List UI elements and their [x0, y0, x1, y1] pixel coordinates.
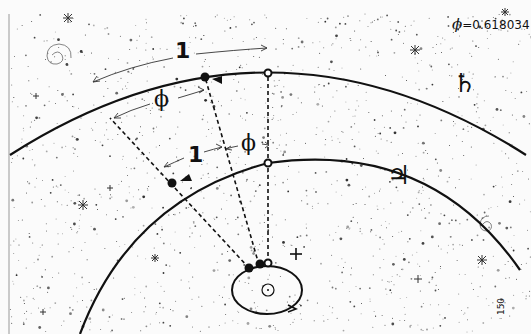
- sun-center: [267, 289, 269, 291]
- earth-position-1: [245, 264, 254, 273]
- jupiter-orbit: [80, 160, 520, 334]
- jupiter-direction-arrow: [180, 174, 192, 181]
- outer-phi-arrow-left: [114, 104, 150, 118]
- diagram-canvas: ϕ=0.618034 1 ϕ 1 ϕ ♄ ♃ 150: [0, 0, 531, 334]
- jupiter-position-open: [265, 160, 272, 167]
- outer-phi-label: ϕ: [154, 88, 169, 110]
- plus-marker: [290, 248, 302, 260]
- page-number: 150: [497, 298, 506, 315]
- sight-line-2: [205, 77, 259, 265]
- phi-value: =0.618034: [462, 18, 529, 32]
- earth-position-3: [265, 260, 272, 267]
- saturn-symbol: ♄: [453, 70, 476, 96]
- jupiter-symbol: ♃: [387, 162, 410, 188]
- orbit-diagram: [0, 0, 531, 334]
- earth-position-2: [256, 260, 265, 269]
- inner-phi-label: ϕ: [241, 132, 256, 154]
- saturn-position-filled: [201, 73, 210, 82]
- outer-one-arrow-right: [196, 48, 267, 54]
- outer-phi-arrow-right: [178, 90, 204, 98]
- outer-one-label: 1: [175, 40, 190, 62]
- inner-one-arrow-left: [164, 158, 184, 167]
- phi-symbol: ϕ: [452, 15, 462, 33]
- golden-ratio-constant: ϕ=0.618034: [452, 17, 530, 32]
- outer-one-arrow-left: [93, 58, 173, 82]
- inner-one-arrow-right: [204, 147, 222, 152]
- saturn-position-open: [265, 70, 272, 77]
- jupiter-position-filled: [168, 179, 177, 188]
- inner-one-label: 1: [188, 144, 203, 166]
